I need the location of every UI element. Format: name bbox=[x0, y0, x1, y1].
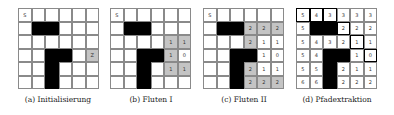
cell-label: 2 bbox=[342, 25, 345, 31]
cell-label: 1 bbox=[355, 66, 358, 72]
grid-fluten-1: S111011 bbox=[110, 8, 191, 89]
cell-label: 2 bbox=[249, 25, 252, 31]
distance-cell: 2 bbox=[271, 22, 285, 36]
cell-label: 5 bbox=[315, 66, 318, 72]
distance-cell: 1 bbox=[257, 49, 271, 63]
empty-cell bbox=[59, 62, 73, 76]
distance-cell: 2 bbox=[244, 76, 258, 90]
panel-pfadextraktion: 543333522254321154105521166222 bbox=[296, 8, 377, 89]
grid-initialisierung: SZ bbox=[18, 8, 99, 89]
empty-cell bbox=[18, 22, 32, 36]
cell-label: 1 bbox=[262, 39, 265, 45]
empty-cell bbox=[203, 76, 217, 90]
empty-cell bbox=[257, 8, 271, 22]
obstacle-cell bbox=[137, 49, 151, 63]
obstacle-cell bbox=[32, 22, 46, 36]
empty-cell bbox=[151, 62, 165, 76]
grid-fluten-2: S22221110211222 bbox=[203, 8, 284, 89]
distance-cell: 1 bbox=[164, 35, 178, 49]
cell-label: 3 bbox=[328, 39, 331, 45]
path-cell: 5 bbox=[296, 8, 310, 22]
cell-label: 3 bbox=[369, 12, 372, 18]
obstacle-cell bbox=[45, 49, 59, 63]
distance-cell: 1 bbox=[178, 62, 192, 76]
distance-cell: 1 bbox=[271, 62, 285, 76]
path-cell: 2 bbox=[337, 22, 351, 36]
empty-cell bbox=[151, 35, 165, 49]
empty-cell bbox=[18, 49, 32, 63]
cell-label: 4 bbox=[315, 39, 318, 45]
cell-label: 5 bbox=[301, 12, 304, 18]
empty-cell bbox=[178, 76, 192, 90]
distance-cell: 3 bbox=[350, 8, 364, 22]
distance-cell: 3 bbox=[323, 35, 337, 49]
empty-cell bbox=[18, 35, 32, 49]
empty-cell bbox=[137, 35, 151, 49]
distance-cell: 3 bbox=[337, 8, 351, 22]
cell-label: 2 bbox=[249, 66, 252, 72]
cell-label: 1 bbox=[169, 52, 172, 58]
empty-cell bbox=[45, 35, 59, 49]
empty-cell bbox=[164, 76, 178, 90]
distance-cell: 2 bbox=[364, 22, 378, 36]
panel-initialisierung: SZ bbox=[18, 8, 99, 89]
empty-cell bbox=[203, 49, 217, 63]
distance-cell: 2 bbox=[337, 76, 351, 90]
distance-cell: 5 bbox=[296, 49, 310, 63]
empty-cell bbox=[110, 62, 124, 76]
cell-label: 3 bbox=[355, 12, 358, 18]
empty-cell bbox=[72, 8, 86, 22]
cell-label: 1 bbox=[169, 66, 172, 72]
cell-label: 1 bbox=[276, 66, 279, 72]
cell-label: 2 bbox=[355, 25, 358, 31]
empty-cell bbox=[110, 22, 124, 36]
distance-cell: 1 bbox=[364, 35, 378, 49]
distance-cell: 2 bbox=[271, 76, 285, 90]
empty-cell bbox=[18, 62, 32, 76]
empty-cell bbox=[217, 49, 231, 63]
empty-cell bbox=[271, 8, 285, 22]
empty-cell bbox=[124, 76, 138, 90]
cell-label: 1 bbox=[262, 66, 265, 72]
obstacle-cell bbox=[137, 76, 151, 90]
empty-cell bbox=[137, 8, 151, 22]
obstacle-cell bbox=[137, 62, 151, 76]
empty-cell bbox=[151, 76, 165, 90]
obstacle-cell bbox=[45, 22, 59, 36]
obstacle-cell bbox=[310, 22, 324, 36]
empty-cell bbox=[86, 22, 100, 36]
obstacle-cell bbox=[323, 62, 337, 76]
empty-cell bbox=[59, 8, 73, 22]
cell-label: 1 bbox=[169, 39, 172, 45]
empty-cell bbox=[86, 76, 100, 90]
empty-cell bbox=[230, 35, 244, 49]
distance-cell: 0 bbox=[178, 49, 192, 63]
cell-label: 0 bbox=[183, 52, 186, 58]
empty-cell bbox=[124, 49, 138, 63]
empty-cell bbox=[110, 49, 124, 63]
cell-label: 2 bbox=[369, 25, 372, 31]
distance-cell: 6 bbox=[310, 76, 324, 90]
empty-cell bbox=[32, 35, 46, 49]
distance-cell: 2 bbox=[244, 22, 258, 36]
empty-cell bbox=[164, 22, 178, 36]
distance-cell: 1 bbox=[257, 35, 271, 49]
obstacle-cell bbox=[230, 76, 244, 90]
start-cell: S bbox=[18, 8, 32, 22]
cell-label: S bbox=[208, 12, 211, 18]
distance-cell: 1 bbox=[271, 35, 285, 49]
empty-cell bbox=[203, 22, 217, 36]
cell-label: 3 bbox=[328, 12, 331, 18]
cell-label: 6 bbox=[315, 79, 318, 85]
start-cell: S bbox=[110, 8, 124, 22]
distance-cell: 6 bbox=[296, 76, 310, 90]
distance-cell: 5 bbox=[296, 62, 310, 76]
path-cell: 4 bbox=[310, 8, 324, 22]
path-cell: 3 bbox=[323, 8, 337, 22]
obstacle-cell bbox=[137, 22, 151, 36]
empty-cell bbox=[244, 8, 258, 22]
distance-cell: 1 bbox=[257, 62, 271, 76]
distance-cell: 2 bbox=[364, 76, 378, 90]
cell-label: 1 bbox=[369, 66, 372, 72]
empty-cell bbox=[72, 22, 86, 36]
